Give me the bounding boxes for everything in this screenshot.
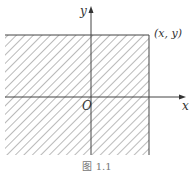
y-axis-arrow-icon — [89, 6, 94, 13]
diagram-canvas — [0, 0, 194, 173]
figure-caption: 图 1.1 — [0, 158, 194, 173]
y-axis-label: y — [80, 5, 87, 17]
x-axis-label: x — [182, 100, 189, 112]
point-label: (x, y) — [154, 28, 182, 39]
hatched-region — [5, 35, 149, 155]
origin-label: O — [82, 100, 92, 112]
